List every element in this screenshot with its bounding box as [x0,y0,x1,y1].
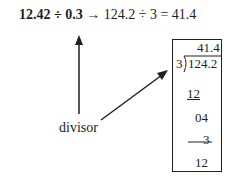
arrow-to-ld-divisor-line [101,75,162,120]
division-bracket [184,56,186,72]
arrow-up-icon [75,35,83,45]
arrow-diagonal-icon [157,70,168,80]
divisor-label: divisor [59,120,98,136]
diagram-lines [0,0,237,178]
